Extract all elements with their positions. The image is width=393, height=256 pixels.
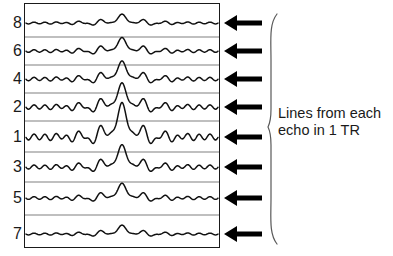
arrow-shaft bbox=[237, 49, 262, 54]
arrow-head bbox=[224, 129, 237, 145]
annotation-line-2: echo in 1 TR bbox=[278, 122, 393, 139]
arrow-head bbox=[224, 99, 237, 115]
arrow-head bbox=[224, 159, 237, 175]
echo-number-label: 2 bbox=[0, 99, 22, 115]
arrow-head bbox=[224, 190, 237, 206]
arrow-shaft bbox=[237, 165, 262, 170]
echo-number-label: 6 bbox=[0, 43, 22, 59]
arrow-head bbox=[224, 226, 237, 242]
arrow-shaft bbox=[237, 135, 262, 140]
arrow-shaft bbox=[237, 21, 262, 26]
kspace-box bbox=[24, 3, 220, 248]
curly-brace-path bbox=[268, 14, 277, 244]
echo-number-label: 7 bbox=[0, 226, 22, 242]
echo-arrow-icon bbox=[224, 226, 262, 242]
annotation-label: Lines from each echo in 1 TR bbox=[278, 105, 393, 139]
arrow-shaft bbox=[237, 77, 262, 82]
echo-number-label: 4 bbox=[0, 71, 22, 87]
arrow-shaft bbox=[237, 196, 262, 201]
echo-arrow-icon bbox=[224, 99, 262, 115]
arrow-shaft bbox=[237, 105, 262, 110]
arrow-head bbox=[224, 43, 237, 59]
echo-number-label: 8 bbox=[0, 15, 22, 31]
figure-root: 86421357 Lines from each echo in 1 TR bbox=[0, 0, 393, 256]
echo-arrow-icon bbox=[224, 190, 262, 206]
arrow-head bbox=[224, 71, 237, 87]
echo-arrow-icon bbox=[224, 43, 262, 59]
echo-arrow-icon bbox=[224, 129, 262, 145]
echo-arrow-icon bbox=[224, 15, 262, 31]
arrow-head bbox=[224, 15, 237, 31]
echo-arrow-icon bbox=[224, 159, 262, 175]
echo-number-label: 5 bbox=[0, 190, 22, 206]
echo-number-label: 3 bbox=[0, 159, 22, 175]
echo-arrow-icon bbox=[224, 71, 262, 87]
arrow-shaft bbox=[237, 232, 262, 237]
echo-number-label: 1 bbox=[0, 129, 22, 145]
annotation-line-1: Lines from each bbox=[278, 105, 393, 122]
